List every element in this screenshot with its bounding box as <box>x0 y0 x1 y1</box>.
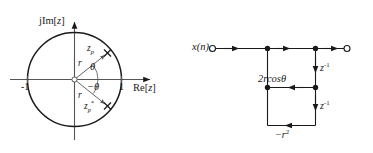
delay-second-exponent: -1 <box>324 99 330 106</box>
flowgraph-diagram: x(n) 2rcosθ z-1 z-1 −r2 <box>190 0 373 153</box>
node-branch-middle-right <box>313 85 318 90</box>
coefficient-label: 2rcosθ <box>258 74 286 85</box>
zplane-canvas <box>0 0 190 153</box>
conj-pole-label-subscript: p <box>88 106 91 113</box>
conjugate-pole-cross-marker <box>104 103 111 110</box>
output-open-circle <box>344 46 350 52</box>
input-signal-label: x(n) <box>192 42 209 53</box>
origin-open-circle <box>72 77 77 82</box>
pole-label: zp <box>87 44 94 55</box>
node-branch-top-right <box>313 46 318 51</box>
conjugate-pole-label: zp* <box>84 100 94 114</box>
angle-label-negative-theta: −θ <box>87 82 99 93</box>
delay-first-exponent: -1 <box>324 61 330 68</box>
pole-label-subscript: p <box>91 48 94 55</box>
radius-label-lower: r <box>78 91 82 101</box>
feedback-coefficient-label: −r2 <box>275 129 289 140</box>
feedback-label-exponent: 2 <box>286 128 289 135</box>
delay-label-first: z-1 <box>320 62 330 73</box>
node-adder-top-left <box>265 46 270 51</box>
real-axis-label: Re[z] <box>133 83 156 94</box>
angle-label-theta: θ <box>90 62 95 73</box>
conj-pole-label-superscript: * <box>91 99 94 106</box>
radius-label-upper: r <box>78 59 82 69</box>
input-open-circle <box>210 46 216 52</box>
tick-label-plus-one: 1 <box>119 82 124 92</box>
zplane-diagram: jIm[z] Re[z] -1 1 zp zp* r r θ −θ <box>0 0 190 153</box>
pole-cross-marker <box>104 50 111 57</box>
tick-label-minus-one: -1 <box>21 82 29 92</box>
feedback-label-base: −r <box>275 129 286 140</box>
imaginary-axis-label: jIm[z] <box>39 16 65 27</box>
delay-label-second: z-1 <box>320 100 330 111</box>
node-adder-middle-left <box>265 85 270 90</box>
figure-root: jIm[z] Re[z] -1 1 zp zp* r r θ −θ <box>0 0 373 153</box>
